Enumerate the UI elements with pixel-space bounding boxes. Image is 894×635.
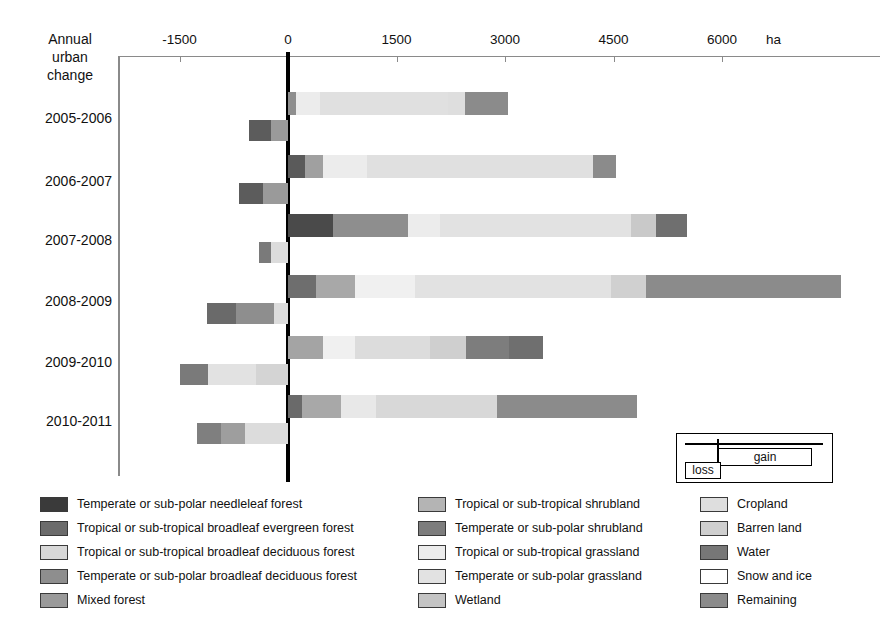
legend-label: Tropical or sub-tropical shrubland [455, 497, 640, 511]
axis-tick-label: 0 [248, 32, 328, 47]
gain-segment [288, 214, 333, 237]
legend-item[interactable]: Remaining [700, 588, 812, 612]
legend-item[interactable]: Tropical or sub-tropical broadleaf decid… [40, 540, 357, 564]
legend-label: Temperate or sub-polar needleleaf forest [77, 497, 302, 511]
loss-segment [180, 364, 209, 385]
loss-segment [221, 423, 245, 444]
loss-segment [249, 120, 271, 141]
legend-item[interactable]: Temperate or sub-polar needleleaf forest [40, 492, 357, 516]
loss-segment [208, 364, 256, 385]
legend-label: Mixed forest [77, 593, 145, 607]
category-label: 2005-2006 [8, 110, 112, 126]
legend-swatch-icon [40, 521, 68, 536]
legend-swatch-icon [40, 593, 68, 608]
gain-segment [288, 395, 302, 418]
legend-swatch-icon [700, 569, 728, 584]
loss-segment [236, 303, 274, 324]
legend-swatch-icon [700, 593, 728, 608]
legend-item[interactable]: Mixed forest [40, 588, 357, 612]
legend-swatch-icon [418, 569, 446, 584]
urban-change-chart: Annualurbanchange -150001500300045006000… [0, 0, 894, 635]
loss-segment [207, 303, 236, 324]
gain-segment [465, 92, 508, 115]
axis-tick-label: 6000 [682, 32, 762, 47]
gain-segment [323, 336, 355, 359]
gain-segment [611, 275, 646, 298]
legend-item[interactable]: Temperate or sub-polar grassland [418, 564, 643, 588]
loss-segment [239, 183, 263, 204]
chart-corner-title: Annualurbanchange [26, 30, 114, 84]
corner-title-line: urban [26, 48, 114, 66]
gain-segment [333, 214, 408, 237]
gain-segment [323, 155, 367, 178]
legend-item[interactable]: Tropical or sub-tropical grassland [418, 540, 643, 564]
gain-segment [376, 395, 498, 418]
axis-tick [180, 56, 181, 62]
legend-item[interactable]: Tropical or sub-tropical shrubland [418, 492, 643, 516]
loss-segment [197, 423, 221, 444]
loss-bar [259, 242, 288, 263]
gain-segment [415, 275, 610, 298]
legend-swatch-icon [700, 545, 728, 560]
legend-item[interactable]: Temperate or sub-polar shrubland [418, 516, 643, 540]
legend-swatch-icon [700, 521, 728, 536]
gain-segment [646, 275, 841, 298]
legend-swatch-icon [40, 545, 68, 560]
axis-tick [505, 56, 506, 62]
gain-loss-key: gain loss [676, 433, 833, 483]
legend-item[interactable]: Cropland [700, 492, 812, 516]
loss-bar [249, 120, 288, 141]
x-axis-line [118, 56, 880, 57]
legend-item[interactable]: Tropical or sub-tropical broadleaf everg… [40, 516, 357, 540]
gain-segment [288, 336, 323, 359]
gain-segment [631, 214, 656, 237]
loss-segment [271, 120, 288, 141]
legend-item[interactable]: Water [700, 540, 812, 564]
gain-segment [305, 155, 323, 178]
legend-label: Cropland [737, 497, 788, 511]
legend-label: Tropical or sub-tropical grassland [455, 545, 639, 559]
legend-item[interactable]: Snow and ice [700, 564, 812, 588]
gain-segment [296, 92, 320, 115]
legend-swatch-icon [40, 569, 68, 584]
gain-segment [302, 395, 340, 418]
gain-bar [288, 155, 616, 178]
category-label: 2006-2007 [8, 173, 112, 189]
axis-tick [397, 56, 398, 62]
gain-segment [320, 92, 448, 115]
legend-item[interactable]: Wetland [418, 588, 643, 612]
gain-segment [408, 214, 440, 237]
gain-segment [509, 336, 542, 359]
axis-unit-label: ha [766, 32, 781, 47]
legend-label: Remaining [737, 593, 797, 607]
legend-item[interactable]: Temperate or sub-polar broadleaf deciduo… [40, 564, 357, 588]
loss-segment [256, 364, 288, 385]
gain-segment [288, 275, 316, 298]
legend-item[interactable]: Barren land [700, 516, 812, 540]
gain-segment [497, 395, 637, 418]
gain-segment [355, 275, 415, 298]
axis-tick-label: 3000 [465, 32, 545, 47]
category-label: 2007-2008 [8, 232, 112, 248]
legend-label: Tropical or sub-tropical broadleaf decid… [77, 545, 354, 559]
gain-segment [593, 155, 616, 178]
corner-title-line: Annual [26, 30, 114, 48]
gain-segment [288, 92, 296, 115]
loss-bar [207, 303, 288, 324]
inset-axis-line [685, 443, 823, 445]
gain-segment [430, 336, 465, 359]
gain-segment [341, 395, 376, 418]
axis-tick-label: 4500 [574, 32, 654, 47]
legend-label: Temperate or sub-polar grassland [455, 569, 642, 583]
inset-gain-label: gain [718, 448, 812, 466]
legend-swatch-icon [700, 497, 728, 512]
gain-segment [288, 155, 305, 178]
legend-label: Snow and ice [737, 569, 812, 583]
legend-label: Wetland [455, 593, 501, 607]
legend-swatch-icon [418, 521, 446, 536]
gain-segment [440, 214, 631, 237]
gain-segment [466, 336, 509, 359]
axis-tick [614, 56, 615, 62]
corner-title-line: change [26, 66, 114, 84]
category-label: 2009-2010 [8, 354, 112, 370]
